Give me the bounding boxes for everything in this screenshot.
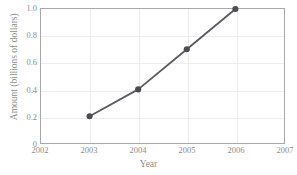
series-line — [90, 9, 236, 116]
data-point-marker — [135, 86, 141, 92]
x-axis-title: Year — [0, 160, 297, 170]
y-axis-title: Amount (billions of dollars) — [10, 0, 20, 142]
x-axis-tick-label: 2005 — [179, 146, 196, 155]
y-axis-tick-label: 0.6 — [26, 58, 37, 67]
x-axis-tick-label: 2003 — [81, 146, 98, 155]
data-point-marker — [232, 6, 238, 12]
y-axis-tick-label: 1.0 — [26, 4, 37, 13]
x-axis-tick-label: 2004 — [130, 146, 147, 155]
y-axis-tick-label: 0.4 — [26, 86, 37, 95]
data-series-layer — [41, 9, 284, 143]
data-point-marker — [87, 113, 93, 119]
series-markers — [87, 6, 239, 119]
data-point-marker — [184, 46, 190, 52]
x-axis-tick-label: 2002 — [32, 146, 49, 155]
line-chart-figure: 00.20.40.60.81.0 20022003200420052006200… — [0, 0, 297, 175]
y-axis-tick-label: 0.8 — [26, 31, 37, 40]
y-axis-tick-label: 0.2 — [26, 113, 37, 122]
x-axis-tick-label: 2006 — [228, 146, 245, 155]
x-axis-tick-label: 2007 — [277, 146, 294, 155]
plot-area — [40, 8, 285, 144]
